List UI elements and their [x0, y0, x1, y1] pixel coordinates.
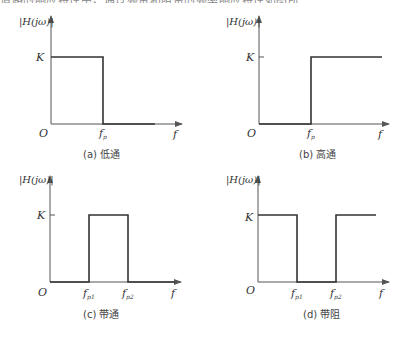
k-label: K — [36, 209, 46, 222]
origin-label: O — [246, 284, 255, 297]
response-curve — [259, 57, 382, 124]
origin-label: O — [247, 127, 256, 140]
y-axis-label: |H(jω)| — [19, 174, 54, 186]
panel-lowpass: |H(jω)| K O f fp (a) 低通 — [19, 16, 182, 160]
x-axis-label: f — [377, 128, 384, 141]
y-axis-label: |H(jω)| — [19, 16, 54, 28]
cutoff-tick-label: fp — [98, 127, 107, 141]
y-axis-label: |H(jω)| — [226, 16, 261, 28]
cutoff-tick-label-2: fp2 — [329, 287, 342, 301]
k-label: K — [35, 51, 45, 64]
caption: (c) 带通 — [83, 309, 119, 320]
k-label: K — [244, 211, 254, 224]
origin-label: O — [39, 127, 48, 140]
k-label: K — [245, 51, 255, 64]
cutoff-tick-label: fp — [306, 127, 315, 141]
cutoff-tick-label-1: fp1 — [82, 287, 95, 301]
x-axis-label: f — [172, 128, 179, 141]
x-axis-label: f — [170, 287, 177, 300]
caption: (a) 低通 — [83, 148, 120, 160]
origin-label: O — [38, 286, 47, 299]
y-axis-label: |H(jω)| — [226, 174, 261, 186]
panel-bandpass: |H(jω)| K O f fp1 fp2 (c) 带通 — [19, 174, 181, 320]
cutoff-tick-label-2: fp2 — [121, 287, 134, 301]
x-axis-label: f — [378, 287, 385, 300]
filter-response-figure: |H(jω)| K O f fp (a) 低通 |H(jω)| K O f fp… — [0, 0, 401, 338]
caption: (d) 带阻 — [303, 309, 340, 320]
response-curve — [50, 215, 175, 282]
response-curve — [51, 57, 155, 124]
panel-highpass: |H(jω)| K O f fp (b) 高通 — [226, 16, 389, 160]
cutoff-tick-label-1: fp1 — [290, 287, 303, 301]
response-curve — [258, 215, 376, 282]
caption: (b) 高通 — [299, 148, 336, 160]
panel-bandstop: |H(jω)| K O f fp1 fp2 (d) 带阻 — [226, 174, 389, 320]
